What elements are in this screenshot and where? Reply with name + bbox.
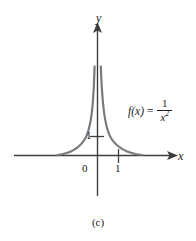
x-tick-label-1: 1 [115,163,121,174]
x-axis-label: x [178,150,183,162]
y-axis-label: y [96,12,101,24]
curve-left-branch [58,67,95,156]
figure-container: y x 0 1 1 f(x) = 1 x2 (c) [0,0,196,241]
equals-sign: = [147,105,154,117]
function-equation-annotation: f(x) = 1 x2 [128,98,172,123]
fraction: 1 x2 [157,98,172,123]
fraction-denominator: x2 [157,111,172,123]
x-axis [14,151,178,160]
origin-tick-label: 0 [82,163,88,174]
denominator-exponent: 2 [165,109,169,118]
y-axis [93,22,102,196]
fraction-numerator: 1 [159,98,171,110]
y-tick-label-1: 1 [86,130,92,141]
figure-caption: (c) [0,216,196,228]
function-name: f(x) [128,105,144,117]
